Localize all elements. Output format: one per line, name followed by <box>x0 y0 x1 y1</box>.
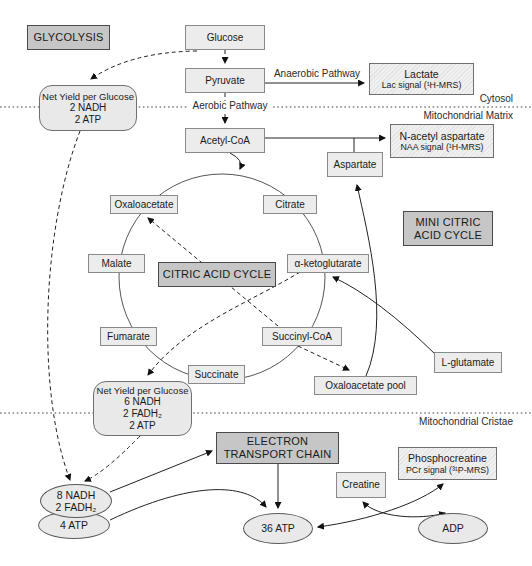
arrow-glucose-netyield1 <box>91 51 197 79</box>
net-yield-glycolysis-box: Net Yield per Glucose 2 NADH 2 ATP <box>39 85 137 131</box>
naa-signal-box: N-acetyl aspartate NAA signal (¹H-MRS) <box>390 124 494 158</box>
cytosol-label: Cytosol <box>440 94 513 104</box>
atp4-label: 4 ATP <box>60 519 88 531</box>
succinyl-coa-label: Succinyl-CoA <box>272 331 332 343</box>
lactate-signal-box: Lactate Lac signal (¹H-MRS) <box>369 63 474 95</box>
arrow-cycle-netyield2 <box>148 272 300 375</box>
mini-citric-line2: ACID CYCLE <box>414 229 482 242</box>
net-yield-glycolysis-atp: 2 ATP <box>75 114 102 126</box>
succinyl-coa-box: Succinyl-CoA <box>262 327 342 346</box>
net-yield-glycolysis-nadh: 2 NADH <box>70 102 107 114</box>
arrow-nadhpool-etc <box>110 451 212 492</box>
net-yield-glycolysis-title: Net Yield per Glucose <box>42 91 134 102</box>
mini-citric-acid-cycle-title-box: MINI CITRIC ACID CYCLE <box>403 211 493 246</box>
phosphocreatine-label: Phosphocreatine <box>408 452 487 464</box>
metabolic-pathway-diagram: Anaerobic Pathway Aerobic Pathway Cytoso… <box>0 0 532 566</box>
aspartate-label: Aspartate <box>334 159 377 171</box>
oxaloacetate-pool-box: Oxaloacetate pool <box>314 376 417 395</box>
succinate-box: Succinate <box>188 365 245 384</box>
arrow-netyield2-nadh-pool <box>85 436 140 481</box>
lactate-mrs-signal: Lac signal (¹H-MRS) <box>382 80 462 90</box>
mitochondrial-matrix-label: Mitochondrial Matrix <box>400 111 513 121</box>
fumarate-box: Fumarate <box>100 327 157 346</box>
oxaloacetate-label: Oxaloacetate <box>115 199 174 211</box>
glucose-box: Glucose <box>185 25 265 50</box>
pyruvate-box: Pyruvate <box>185 68 265 93</box>
net-yield-cycle-box: Net Yield per Glucose 6 NADH 2 FADH₂ 2 A… <box>93 381 192 436</box>
l-glutamate-box: L-glutamate <box>434 352 502 373</box>
glycolysis-title-box: GLYCOLYSIS <box>27 25 110 50</box>
creatine-box: Creatine <box>336 472 386 498</box>
etc-line1: ELECTRON <box>247 435 309 448</box>
lactate-label: Lactate <box>404 68 438 80</box>
net-yield-cycle-title: Net Yield per Glucose <box>97 385 189 396</box>
aerobic-pathway-label: Aerobic Pathway <box>188 101 272 111</box>
phosphocreatine-signal-box: Phosphocreatine PCr signal (³¹P-MRS) <box>398 447 497 480</box>
net-yield-cycle-nadh: 6 NADH <box>124 396 161 408</box>
atp36-ellipse: 36 ATP <box>243 513 313 544</box>
fumarate-label: Fumarate <box>107 331 150 343</box>
aspartate-box: Aspartate <box>327 152 383 177</box>
l-glutamate-label: L-glutamate <box>442 357 495 369</box>
anaerobic-pathway-label: Anaerobic Pathway <box>268 69 366 79</box>
electron-transport-chain-title-box: ELECTRON TRANSPORT CHAIN <box>216 432 339 464</box>
arrow-acetylcoa-cycle <box>230 153 241 169</box>
citric-acid-cycle-title-box: CITRIC ACID CYCLE <box>158 262 276 287</box>
mini-citric-line1: MINI CITRIC <box>415 216 480 229</box>
arrow-oaapool-aspartate <box>357 185 377 376</box>
oxaloacetate-pool-label: Oxaloacetate pool <box>325 380 406 392</box>
malate-box: Malate <box>88 254 145 273</box>
glucose-label: Glucose <box>207 32 244 44</box>
citrate-label: Citrate <box>275 199 304 211</box>
alpha-ketoglutarate-label: α-ketoglutarate <box>295 258 362 270</box>
pyruvate-label: Pyruvate <box>205 75 244 87</box>
glycolysis-title: GLYCOLYSIS <box>33 31 103 44</box>
acetyl-coa-box: Acetyl-CoA <box>185 128 265 153</box>
citrate-box: Citrate <box>263 195 317 214</box>
oxaloacetate-box: Oxaloacetate <box>110 195 178 214</box>
malate-label: Malate <box>101 258 131 270</box>
succinate-label: Succinate <box>195 369 239 381</box>
mitochondrial-cristae-label: Mitochondrial Cristae <box>400 417 513 427</box>
arrow-succinylcoa-oaa-pool <box>298 346 349 370</box>
citric-acid-cycle-title: CITRIC ACID CYCLE <box>163 268 272 281</box>
arrow-lglutamate-akg <box>333 277 436 355</box>
fadh2-pool-label: 2 FADH₂ <box>56 501 97 513</box>
naa-label: N-acetyl aspartate <box>399 130 484 142</box>
alpha-ketoglutarate-box: α-ketoglutarate <box>287 254 369 273</box>
arrow-netyield1-nadh-pool <box>48 131 80 480</box>
net-yield-cycle-fadh2: 2 FADH₂ <box>123 408 162 420</box>
adp-label: ADP <box>442 522 464 534</box>
naa-mrs-signal: NAA signal (¹H-MRS) <box>400 142 483 152</box>
creatine-label: Creatine <box>342 479 380 491</box>
net-yield-cycle-atp: 2 ATP <box>129 420 156 432</box>
adp-ellipse: ADP <box>418 513 488 544</box>
nadh-fadh2-pool-ellipse: 8 NADH 2 FADH₂ <box>40 484 112 518</box>
arrow-atp4-atp36 <box>110 490 266 520</box>
etc-line2: TRANSPORT CHAIN <box>224 448 332 461</box>
atp36-label: 36 ATP <box>261 522 295 534</box>
nadh-pool-label: 8 NADH <box>57 489 96 501</box>
phosphocreatine-mrs-signal: PCr signal (³¹P-MRS) <box>406 465 489 475</box>
acetyl-coa-label: Acetyl-CoA <box>200 135 250 147</box>
